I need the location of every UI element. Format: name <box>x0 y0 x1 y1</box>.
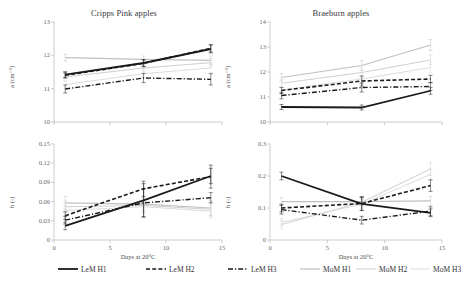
y-tick-label: 10 <box>20 118 50 125</box>
y-tick-label: 0.15 <box>20 140 50 147</box>
x-tick-label: 15 <box>212 244 232 251</box>
legend-swatch-icon <box>300 265 320 273</box>
series-line <box>281 186 430 208</box>
y-tick-label: 13 <box>236 43 266 50</box>
legend-label: LeM H3 <box>251 265 277 274</box>
y-tick-label: 0.03 <box>20 217 50 224</box>
series-lem-h2 <box>63 165 213 219</box>
y-tick-label: 0.12 <box>20 159 50 166</box>
error-bar <box>429 83 433 91</box>
x-tick-label: 10 <box>375 244 395 251</box>
x-tick-label: 10 <box>156 244 176 251</box>
legend-label: LeM H2 <box>169 265 195 274</box>
panel-title: Braeburn apples <box>230 8 452 18</box>
legend-label: MoM H2 <box>379 265 407 274</box>
plot-area <box>54 144 224 242</box>
series-line <box>65 68 211 85</box>
legend-swatch-icon <box>228 265 248 273</box>
y-tick-label: 0.3 <box>236 140 266 147</box>
y-tick-label: 14 <box>236 18 266 25</box>
y-axis-label: b (-) <box>8 197 15 208</box>
y-tick-label: 11 <box>236 93 266 100</box>
x-tick-label: 15 <box>432 244 452 251</box>
series-line <box>65 58 211 61</box>
legend-item-mom-h1[interactable]: MoM H1 <box>300 262 351 276</box>
panel-title: Cripps Pink apples <box>18 8 230 18</box>
series-lem-h3 <box>279 205 432 224</box>
series-line <box>65 207 211 211</box>
legend-swatch-icon <box>58 265 78 273</box>
series-mom-h3 <box>279 169 432 227</box>
y-tick-label: 13 <box>20 18 50 25</box>
legend-item-mom-h3[interactable]: MoM H3 <box>410 262 461 276</box>
legend-swatch-icon <box>356 265 376 273</box>
series-lem-h2 <box>279 180 432 212</box>
series-line <box>65 176 211 226</box>
legend-item-lem-h2[interactable]: LeM H2 <box>146 262 195 276</box>
panel-braeburn-a: Braeburn apples 1011121314a (cm⁻¹) <box>230 8 452 136</box>
series-lem-h2 <box>279 75 432 93</box>
series-line <box>281 169 430 225</box>
y-tick-label: 0.2 <box>236 172 266 179</box>
x-tick-label: 0 <box>44 244 64 251</box>
y-tick-label: 0.09 <box>20 178 50 185</box>
series-mom-h1 <box>279 40 432 82</box>
legend-label: MoM H3 <box>433 265 461 274</box>
legend-item-lem-h3[interactable]: LeM H3 <box>228 262 277 276</box>
panel-cripps-pink-a: Cripps Pink apples 10111213a (cm⁻¹) <box>18 8 230 136</box>
legend-swatch-icon <box>146 265 166 273</box>
x-tick-label: 5 <box>100 244 120 251</box>
series-mom-h3 <box>63 63 213 88</box>
series-lem-h3 <box>63 73 213 93</box>
series-mom-h3 <box>279 63 432 94</box>
series-line <box>65 48 211 75</box>
y-tick-label: 0.06 <box>20 198 50 205</box>
y-tick-label: 10 <box>236 118 266 125</box>
y-axis-label: b (-) <box>224 197 231 208</box>
y-tick-label: 12 <box>236 68 266 75</box>
plot-area <box>270 144 444 242</box>
series-line <box>65 198 211 220</box>
y-axis-label: a (cm⁻¹) <box>224 66 232 88</box>
x-tick-label: 0 <box>260 244 280 251</box>
x-tick-label: 5 <box>317 244 337 251</box>
legend-label: MoM H1 <box>323 265 351 274</box>
error-bar <box>209 45 213 52</box>
series-line <box>281 174 430 222</box>
series-line <box>65 78 211 89</box>
panel-braeburn-b: 00.10.20.3051015b (-)Days at 20°C <box>230 136 452 258</box>
y-tick-label: 0 <box>236 236 266 243</box>
legend-item-mom-h2[interactable]: MoM H2 <box>356 262 407 276</box>
series-lem-h1 <box>279 87 432 110</box>
panel-cripps-pink-b: 00.030.060.090.120.15051015b (-)Days at … <box>18 136 230 258</box>
y-tick-label: 0.1 <box>236 204 266 211</box>
y-tick-label: 11 <box>20 85 50 92</box>
y-tick-label: 0 <box>20 236 50 243</box>
series-line <box>281 45 430 78</box>
y-tick-label: 12 <box>20 51 50 58</box>
legend-item-lem-h1[interactable]: LeM H1 <box>58 262 107 276</box>
legend: LeM H1LeM H2LeM H3MoM H1MoM H2MoM H3 <box>0 258 455 282</box>
series-lem-h2 <box>63 45 213 78</box>
y-axis-label: a (cm⁻¹) <box>8 66 16 88</box>
plot-area <box>270 22 444 124</box>
legend-label: LeM H1 <box>81 265 107 274</box>
plot-area <box>54 22 224 124</box>
legend-swatch-icon <box>410 265 430 273</box>
